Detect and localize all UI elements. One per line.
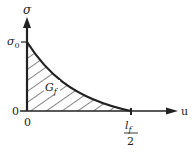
origin-y-label: 0 [12, 105, 19, 118]
x-axis-arrow-icon [166, 108, 178, 115]
fracture-energy-area [27, 42, 131, 111]
sigma0-label: σ0 [7, 35, 20, 50]
lf-numerator-label: lf [125, 119, 134, 134]
origin-x-label: 0 [24, 116, 31, 129]
lf-denominator-label: 2 [127, 135, 134, 148]
y-axis-arrow-icon [23, 17, 31, 28]
y-axis-label: σ [23, 3, 32, 17]
x-axis-label: u [181, 105, 188, 118]
diagram-canvas: σ σ0 0 0 u lf 2 Gf [0, 0, 193, 153]
